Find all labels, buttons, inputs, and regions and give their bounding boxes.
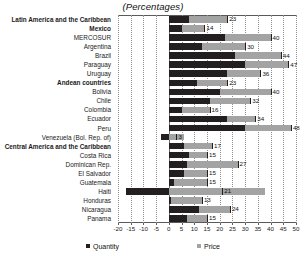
total-marker bbox=[222, 188, 223, 195]
bar-segment-quantity bbox=[169, 125, 245, 132]
bar-segment-price bbox=[184, 143, 212, 150]
category-label-row: Panama bbox=[0, 214, 114, 224]
bar-segment-quantity bbox=[169, 215, 187, 222]
legend-label: Quantity bbox=[93, 243, 119, 250]
bar-segment-quantity bbox=[169, 70, 227, 77]
gridline bbox=[271, 15, 273, 223]
category-label: Panama bbox=[0, 214, 114, 224]
bar-value-label: 16 bbox=[212, 107, 219, 114]
bar-segment-price bbox=[189, 152, 207, 159]
total-marker bbox=[207, 179, 208, 186]
legend-swatch-icon bbox=[86, 244, 90, 248]
bar-segment-quantity bbox=[169, 61, 245, 68]
axis-tick-label: 50 bbox=[293, 225, 300, 232]
bar-value-label: 15 bbox=[209, 179, 216, 186]
bar-segment-quantity bbox=[169, 107, 182, 114]
category-axis-labels: Latin America and the CaribbeanMexicoMER… bbox=[0, 15, 114, 223]
bar-segment-price bbox=[174, 179, 207, 186]
bar-segment-price bbox=[187, 215, 207, 222]
bar-segment-quantity bbox=[169, 206, 200, 213]
bar-value-label: 44 bbox=[283, 53, 290, 60]
bar-value-label: 40 bbox=[273, 35, 280, 42]
total-marker bbox=[210, 107, 211, 114]
bar-segment-quantity bbox=[169, 161, 187, 168]
total-marker bbox=[255, 116, 256, 123]
gridline bbox=[296, 15, 298, 223]
total-marker bbox=[207, 170, 208, 177]
bar-segment-price bbox=[189, 16, 227, 23]
gridline bbox=[283, 15, 285, 223]
bar-segment-price bbox=[184, 170, 207, 177]
bar-value-label: 15 bbox=[209, 170, 216, 177]
bar-segment-quantity bbox=[169, 25, 182, 32]
bar-segment-price bbox=[187, 161, 238, 168]
bar-value-label: 15 bbox=[209, 215, 216, 222]
bar-segment-price bbox=[225, 34, 271, 41]
axis-tick-label: 30 bbox=[242, 225, 249, 232]
bar-segment-price bbox=[202, 43, 245, 50]
bar-segment-price bbox=[227, 70, 260, 77]
value-axis-ticks: -20-15-10-505101520253035404550 bbox=[118, 225, 296, 235]
axis-tick-label: 0 bbox=[167, 225, 170, 232]
bar-segment-quantity bbox=[169, 98, 210, 105]
total-marker bbox=[227, 16, 228, 23]
bar-segment-quantity bbox=[169, 34, 225, 41]
bar-segment-quantity bbox=[169, 80, 197, 87]
chart-legend: QuantityPrice bbox=[0, 240, 306, 252]
bar-value-label: 21 bbox=[224, 188, 231, 195]
chart-container: (Percentages) Latin America and the Cari… bbox=[0, 0, 306, 256]
bar-segment-quantity bbox=[169, 143, 184, 150]
total-marker bbox=[230, 206, 231, 213]
bar-value-label: 23 bbox=[229, 80, 236, 87]
bar-value-label: 23 bbox=[229, 16, 236, 23]
bar-value-label: 24 bbox=[232, 206, 239, 213]
bar-segment-quantity bbox=[126, 188, 169, 195]
bar-value-label: 17 bbox=[214, 143, 221, 150]
legend-label: Price bbox=[204, 243, 220, 250]
total-marker bbox=[271, 89, 272, 96]
total-marker bbox=[204, 25, 205, 32]
total-marker bbox=[207, 152, 208, 159]
bar-segment-price bbox=[199, 206, 230, 213]
bar-value-label: 14 bbox=[206, 25, 213, 32]
bar-segment-price bbox=[182, 25, 205, 32]
total-marker bbox=[207, 215, 208, 222]
total-marker bbox=[212, 143, 213, 150]
axis-tick-label: 15 bbox=[204, 225, 211, 232]
bar-value-label: 36 bbox=[262, 71, 269, 78]
axis-tick-label: 45 bbox=[280, 225, 287, 232]
bar-segment-quantity bbox=[169, 16, 189, 23]
axis-tick-label: 5 bbox=[180, 225, 183, 232]
total-marker bbox=[291, 125, 292, 132]
bar-value-label: 32 bbox=[252, 98, 259, 105]
total-marker bbox=[245, 43, 246, 50]
axis-tick-label: 20 bbox=[216, 225, 223, 232]
bar-value-label: 34 bbox=[257, 116, 264, 123]
bar-segment-quantity bbox=[169, 43, 202, 50]
legend-item-price[interactable]: Price bbox=[197, 243, 220, 250]
axis-tick-label: -5 bbox=[153, 225, 159, 232]
axis-tick-label: -10 bbox=[139, 225, 148, 232]
bar-segment-price bbox=[169, 188, 266, 195]
total-marker bbox=[202, 197, 203, 204]
bar-value-label: 40 bbox=[273, 89, 280, 96]
axis-tick-label: -15 bbox=[126, 225, 135, 232]
bar-segment-quantity bbox=[169, 89, 220, 96]
bar-value-label: 3 bbox=[178, 134, 181, 141]
total-marker bbox=[288, 61, 289, 68]
axis-tick-label: 40 bbox=[267, 225, 274, 232]
bar-segment-price bbox=[245, 61, 288, 68]
bar-segment-price bbox=[171, 197, 202, 204]
total-marker bbox=[250, 98, 251, 105]
bar-segment-price bbox=[197, 80, 228, 87]
legend-item-quantity[interactable]: Quantity bbox=[86, 243, 119, 250]
bar-segment-quantity bbox=[169, 116, 227, 123]
axis-tick-label: 10 bbox=[191, 225, 198, 232]
axis-tick-label: 25 bbox=[229, 225, 236, 232]
bar-segment-price bbox=[220, 89, 271, 96]
bar-segment-price bbox=[182, 107, 210, 114]
plot-area: 2314403044473623403216344831715271515211… bbox=[118, 15, 296, 223]
chart-subtitle: (Percentages) bbox=[0, 1, 306, 12]
total-marker bbox=[281, 52, 282, 59]
total-marker bbox=[176, 134, 177, 141]
